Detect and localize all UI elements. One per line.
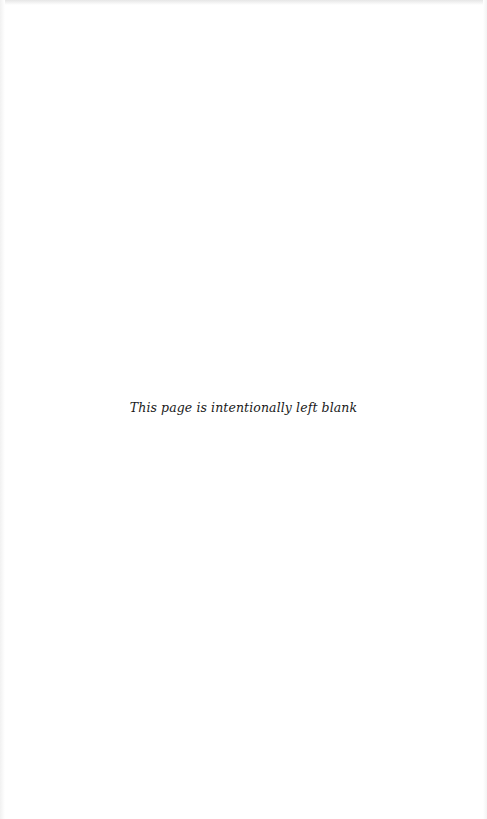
scan-top-edge (0, 0, 487, 5)
blank-page: This page is intentionally left blank (0, 0, 487, 819)
intentionally-blank-notice: This page is intentionally left blank (0, 400, 487, 415)
